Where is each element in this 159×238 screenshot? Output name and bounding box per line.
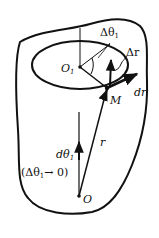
label-M: M xyxy=(109,94,122,107)
label-delta-theta: Δθ1 xyxy=(100,26,119,40)
angle-arc xyxy=(91,58,93,74)
label-O1: O1 xyxy=(61,62,75,76)
delta-r-vector xyxy=(110,60,111,86)
label-d-theta: dθ1 xyxy=(56,148,74,162)
rotation-diagram: Δθ1 Δr dr M O1 dθ1 r (Δθ1→ 0) O xyxy=(0,0,159,238)
point-O1 xyxy=(78,65,82,69)
label-O: O xyxy=(83,193,92,206)
radius-O1-M xyxy=(80,67,107,88)
point-O xyxy=(77,194,81,198)
label-limit: (Δθ1→ 0) xyxy=(21,166,68,180)
point-M xyxy=(105,86,109,90)
radius-O1-previous xyxy=(80,44,110,67)
label-r: r xyxy=(100,136,106,149)
delta-theta-leader xyxy=(98,43,110,58)
label-dr: dr xyxy=(134,86,147,99)
delta-r-arc xyxy=(113,62,122,70)
label-delta-r: Δr xyxy=(126,46,140,59)
